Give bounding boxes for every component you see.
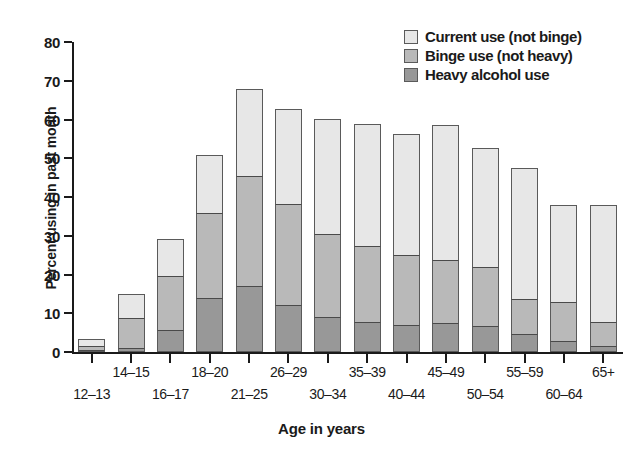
x-axis-tick-label: 16–17 bbox=[152, 386, 189, 402]
bar-segment-current-use bbox=[511, 168, 538, 300]
bar-26-29[interactable] bbox=[275, 109, 302, 352]
bar-segment-binge-use bbox=[118, 318, 145, 349]
y-axis-tick bbox=[64, 196, 72, 198]
plot-area bbox=[72, 42, 623, 352]
bar-18-20[interactable] bbox=[196, 155, 223, 352]
y-axis-tick bbox=[64, 351, 72, 353]
y-axis-tick bbox=[64, 312, 72, 314]
bar-segment-current-use bbox=[196, 155, 223, 214]
bar-series-group bbox=[72, 42, 623, 352]
legend-item-binge-use[interactable]: Binge use (not heavy) bbox=[404, 47, 582, 64]
bar-segment-binge-use bbox=[550, 302, 577, 342]
legend-label-binge-use: Binge use (not heavy) bbox=[425, 47, 572, 64]
bar-40-44[interactable] bbox=[393, 134, 420, 352]
bar-35-39[interactable] bbox=[354, 124, 381, 352]
y-axis-tick-label: 80 bbox=[44, 34, 60, 51]
x-axis-tick bbox=[563, 352, 565, 363]
bar-segment-current-use bbox=[354, 124, 381, 247]
legend-swatch-current-use bbox=[404, 30, 418, 44]
bar-segment-binge-use bbox=[157, 276, 184, 331]
x-axis-tick-label: 40–44 bbox=[388, 386, 425, 402]
bar-segment-heavy-use bbox=[354, 322, 381, 352]
y-axis-tick bbox=[64, 80, 72, 82]
x-axis-tick-label: 55–59 bbox=[506, 364, 543, 380]
bar-segment-heavy-use bbox=[157, 330, 184, 352]
bar-segment-current-use bbox=[472, 148, 499, 269]
bar-60-64[interactable] bbox=[550, 205, 577, 352]
bar-segment-current-use bbox=[590, 205, 617, 323]
bar-segment-heavy-use bbox=[550, 341, 577, 352]
bar-segment-binge-use bbox=[432, 260, 459, 324]
x-axis-tick-label: 50–54 bbox=[467, 386, 504, 402]
y-axis-tick-label: 0 bbox=[52, 344, 60, 361]
x-axis-tick bbox=[209, 352, 211, 363]
bar-14-15[interactable] bbox=[118, 294, 145, 352]
x-axis-tick bbox=[248, 352, 250, 363]
x-axis-line bbox=[72, 352, 623, 354]
y-axis-tick bbox=[64, 119, 72, 121]
bar-segment-current-use bbox=[236, 89, 263, 176]
bar-segment-binge-use bbox=[590, 322, 617, 347]
bar-segment-heavy-use bbox=[196, 298, 223, 352]
bar-segment-binge-use bbox=[511, 299, 538, 335]
y-axis-title-host: Percent using in past month bbox=[30, 42, 31, 353]
x-axis-tick-label: 45–49 bbox=[427, 364, 464, 380]
bar-segment-binge-use bbox=[196, 213, 223, 299]
y-axis-tick bbox=[64, 235, 72, 237]
bar-65+[interactable] bbox=[590, 205, 617, 352]
y-axis-tick bbox=[64, 41, 72, 43]
legend-label-heavy-use: Heavy alcohol use bbox=[425, 66, 549, 83]
bar-segment-binge-use bbox=[472, 267, 499, 326]
x-axis-tick-label: 60–64 bbox=[545, 386, 582, 402]
y-axis-tick bbox=[64, 274, 72, 276]
x-axis-tick-label: 35–39 bbox=[349, 364, 386, 380]
bar-45-49[interactable] bbox=[432, 125, 459, 352]
bar-30-34[interactable] bbox=[314, 119, 341, 352]
x-axis-tick bbox=[327, 352, 329, 363]
bar-segment-binge-use bbox=[393, 255, 420, 326]
bar-segment-current-use bbox=[157, 239, 184, 277]
legend-item-current-use[interactable]: Current use (not binge) bbox=[404, 28, 582, 45]
bar-segment-heavy-use bbox=[511, 334, 538, 352]
legend: Current use (not binge) Binge use (not h… bbox=[404, 28, 582, 83]
bar-50-54[interactable] bbox=[472, 148, 499, 352]
legend-swatch-binge-use bbox=[404, 49, 418, 63]
x-axis-tick-label: 12–13 bbox=[73, 386, 110, 402]
bar-segment-heavy-use bbox=[236, 286, 263, 352]
bar-segment-binge-use bbox=[236, 176, 263, 288]
legend-label-current-use: Current use (not binge) bbox=[425, 28, 582, 45]
legend-item-heavy-use[interactable]: Heavy alcohol use bbox=[404, 66, 582, 83]
bar-12-13[interactable] bbox=[78, 339, 105, 352]
bar-segment-heavy-use bbox=[393, 325, 420, 352]
bar-segment-current-use bbox=[275, 109, 302, 205]
x-axis-tick bbox=[445, 352, 447, 363]
bar-21-25[interactable] bbox=[236, 89, 263, 352]
x-axis-tick bbox=[366, 352, 368, 363]
bar-segment-binge-use bbox=[275, 204, 302, 306]
y-axis-title: Percent using in past month bbox=[43, 73, 59, 323]
bar-segment-heavy-use bbox=[275, 305, 302, 352]
x-axis-tick bbox=[484, 352, 486, 363]
x-axis-tick bbox=[287, 352, 289, 363]
bar-16-17[interactable] bbox=[157, 239, 184, 352]
x-axis-tick bbox=[406, 352, 408, 363]
x-axis-tick-label: 21–25 bbox=[231, 386, 268, 402]
x-axis-tick bbox=[602, 352, 604, 363]
bar-segment-current-use bbox=[118, 294, 145, 320]
bar-segment-heavy-use bbox=[472, 326, 499, 352]
bar-segment-binge-use bbox=[314, 234, 341, 318]
bar-segment-binge-use bbox=[354, 246, 381, 323]
bar-segment-current-use bbox=[393, 134, 420, 255]
x-axis-tick-label: 30–34 bbox=[309, 386, 346, 402]
bar-segment-current-use bbox=[314, 119, 341, 235]
bar-segment-current-use bbox=[550, 205, 577, 303]
x-axis-tick-label: 18–20 bbox=[191, 364, 228, 380]
legend-swatch-heavy-use bbox=[404, 68, 418, 82]
bar-segment-current-use bbox=[432, 125, 459, 261]
bar-55-59[interactable] bbox=[511, 168, 538, 352]
x-axis-tick-label: 65+ bbox=[592, 364, 615, 380]
bar-chart: 01020304050607080 Percent using in past … bbox=[0, 0, 643, 466]
x-axis-tick bbox=[91, 352, 93, 363]
bar-segment-heavy-use bbox=[432, 323, 459, 352]
bar-segment-heavy-use bbox=[314, 317, 341, 352]
